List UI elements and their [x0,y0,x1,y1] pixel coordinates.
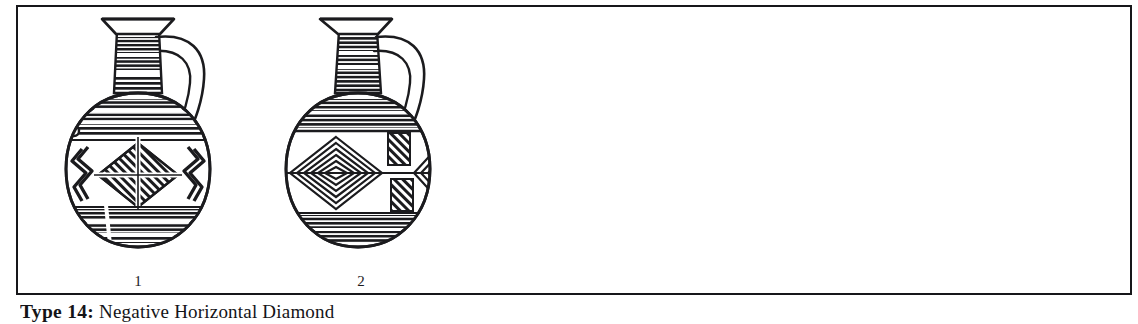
vessel-number-2: 2 [341,273,381,290]
vessel-drawing-1 [38,7,238,295]
vessel-drawing-2 [258,7,458,295]
caption-type-label: Type 14: [20,301,94,322]
plate-figure: 1 2 Type 14: Negative Horizontal Diamond [0,0,1138,324]
vessel-number-1: 1 [118,273,158,290]
hatched-block-upper-2 [388,133,410,165]
hatched-block-lower-2 [391,179,413,211]
plate-caption: Type 14: Negative Horizontal Diamond [20,301,1120,323]
vessel-drawing-field: 1 2 [16,5,1132,295]
neck-bands-1 [112,37,166,93]
caption-type-text: Negative Horizontal Diamond [94,301,334,322]
